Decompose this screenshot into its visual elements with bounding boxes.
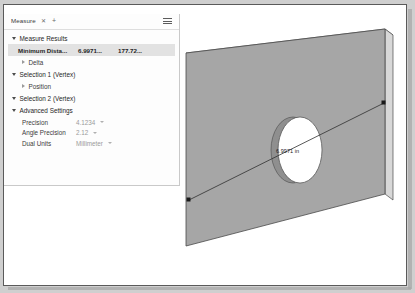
plus-icon[interactable]: + [52,17,56,24]
setting-label: Precision [22,119,76,126]
caret-down-icon[interactable] [12,37,16,40]
caret-right-icon[interactable] [22,60,25,64]
setting-value: 2.12 [76,129,88,136]
tab-measure[interactable]: Measure [11,17,36,24]
result-value-secondary: 177.72... [118,47,163,54]
setting-value: Millimeter [76,140,103,147]
measure-panel[interactable]: Measure ✕ + Measure Results Minimum Dist… [4,14,180,186]
caret-down-icon[interactable] [12,109,16,112]
dimension-label: 6.9971 in [276,148,299,154]
setting-precision[interactable]: Precision 4.1234 [4,117,179,128]
vertex-marker-1[interactable] [187,198,191,202]
chevron-down-icon[interactable] [100,121,104,123]
section-selection-1[interactable]: Selection 1 (Vertex) [4,68,179,80]
caret-down-icon[interactable] [12,97,16,100]
setting-angle-precision[interactable]: Angle Precision 2.12 [4,128,179,139]
tree-item-label: Position [29,83,51,90]
chevron-down-icon[interactable] [93,132,97,134]
window-shadow-right [408,9,412,289]
table-row-minimum-distance[interactable]: Minimum Dista... 6.9971... 177.72... [8,44,175,56]
hamburger-menu-icon[interactable] [163,18,172,24]
section-advanced-settings[interactable]: Advanced Settings [4,105,179,117]
tree-item-delta[interactable]: Delta [4,56,179,68]
result-value-primary: 6.9971... [78,47,118,54]
tree-item-label: Delta [29,59,44,66]
application-window: 6.9971 in Measure ✕ + Measure Results Mi… [3,4,407,286]
window-shadow-bottom [8,287,411,290]
hamburger-line [163,18,172,19]
hamburger-line [163,23,172,24]
tree-item-position[interactable]: Position [4,80,179,92]
result-label: Minimum Dista... [18,47,78,54]
panel-body: Measure Results Minimum Dista... 6.9971.… [4,30,179,149]
section-label: Selection 1 (Vertex) [20,71,76,78]
plate-side-face [385,29,393,200]
panel-tab-bar: Measure ✕ + [4,14,179,30]
caret-down-icon[interactable] [12,73,16,76]
setting-label: Dual Units [22,140,76,147]
hamburger-line [163,21,172,22]
setting-value: 4.1234 [76,119,95,126]
caret-right-icon[interactable] [22,84,25,88]
vertex-marker-2[interactable] [382,101,386,105]
setting-label: Angle Precision [22,129,76,136]
section-selection-2[interactable]: Selection 2 (Vertex) [4,93,179,105]
section-label: Selection 2 (Vertex) [20,95,76,102]
setting-dual-units[interactable]: Dual Units Millimeter [4,138,179,149]
close-icon[interactable]: ✕ [41,17,46,24]
chevron-down-icon[interactable] [108,142,112,144]
section-measure-results[interactable]: Measure Results [4,32,179,44]
section-label: Measure Results [20,35,68,42]
section-label: Advanced Settings [20,107,73,114]
